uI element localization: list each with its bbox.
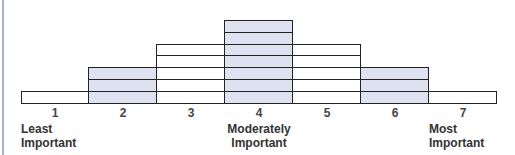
column-1 — [21, 92, 89, 104]
category-label-4: 4 — [225, 106, 293, 120]
column-5 — [293, 45, 361, 104]
cell — [428, 91, 498, 104]
moderately-label-line2: Important — [225, 136, 293, 150]
column-2 — [89, 69, 157, 104]
cell — [292, 91, 362, 104]
category-label-1: 1 — [21, 106, 89, 120]
cell — [88, 91, 158, 104]
column-6 — [361, 69, 429, 104]
least-important-label: Least Important — [21, 122, 76, 150]
most-label-line1: Most — [429, 122, 499, 136]
least-label-line2: Important — [21, 136, 76, 150]
column-7 — [429, 92, 497, 104]
left-border — [2, 0, 4, 155]
cell — [224, 91, 294, 104]
cell — [21, 91, 89, 104]
most-label-line2: Important — [429, 136, 499, 150]
category-label-7: 7 — [429, 106, 497, 120]
category-label-2: 2 — [89, 106, 157, 120]
distribution-grid — [21, 0, 497, 104]
category-label-3: 3 — [157, 106, 225, 120]
category-label-6: 6 — [361, 106, 429, 120]
least-label-line1: Least — [21, 122, 76, 136]
column-4 — [225, 21, 293, 104]
cell — [156, 91, 226, 104]
category-label-5: 5 — [293, 106, 361, 120]
column-3 — [157, 45, 225, 104]
moderately-important-label: Moderately Important — [225, 122, 293, 150]
category-labels: Least Important Moderately Important Mos… — [21, 106, 497, 154]
moderately-label-line1: Moderately — [225, 122, 293, 136]
most-important-label: Most Important — [429, 122, 499, 150]
cell — [360, 91, 430, 104]
